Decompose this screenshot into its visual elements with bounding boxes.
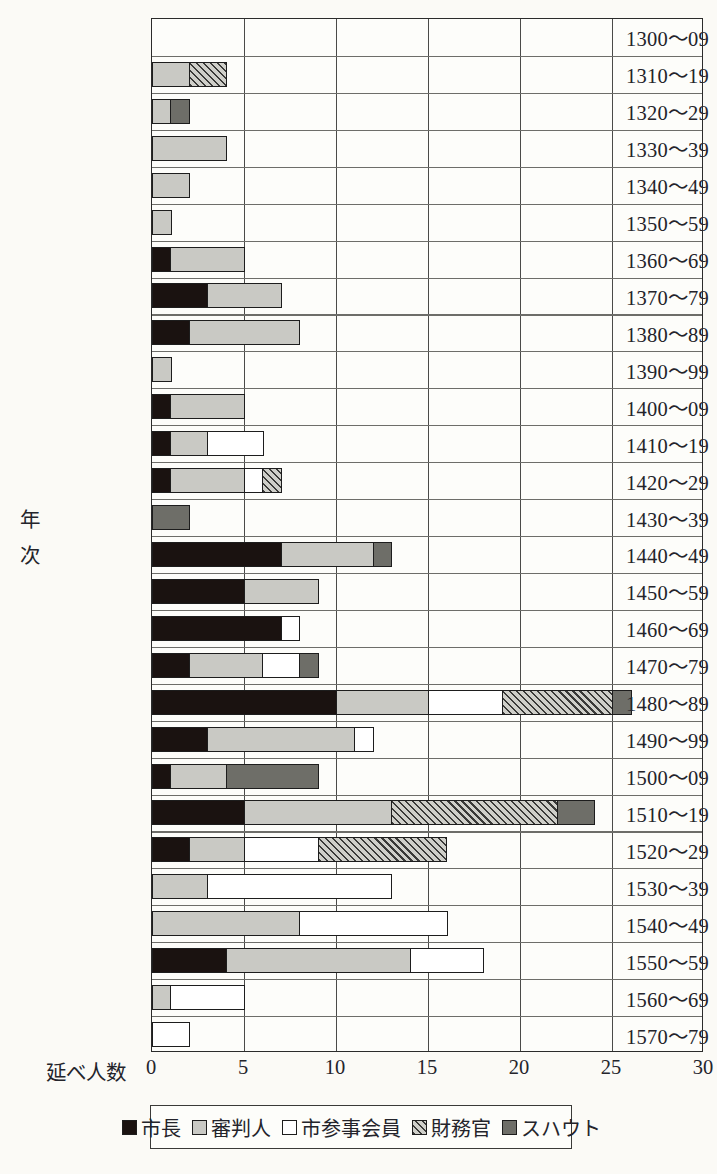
bar-segment-shinpan bbox=[281, 542, 374, 567]
bar-1510～19 bbox=[152, 800, 595, 825]
y-axis-tick-label: 1320～29 bbox=[572, 96, 717, 126]
bar-segment-sanji bbox=[262, 653, 300, 678]
rowline bbox=[152, 647, 702, 648]
bar-1530～39 bbox=[152, 874, 392, 899]
bar-1460～69 bbox=[152, 616, 300, 641]
bar-segment-shicho bbox=[152, 800, 245, 825]
rowline bbox=[152, 831, 702, 832]
legend-label-zaimu: 財務官 bbox=[431, 1113, 491, 1142]
y-axis-tick-label: 1480～89 bbox=[572, 687, 717, 717]
bar-1480～89 bbox=[152, 690, 632, 715]
bar-1380～89 bbox=[152, 320, 300, 345]
bar-segment-shicho bbox=[152, 283, 208, 308]
x-axis-tick-15: 15 bbox=[417, 1056, 438, 1079]
bar-segment-shinpan bbox=[244, 579, 319, 604]
bar-1550～59 bbox=[152, 948, 484, 973]
bar-segment-shinpan bbox=[152, 210, 172, 235]
y-axis-tick-label: 1550～59 bbox=[572, 946, 717, 976]
y-axis-tick-label: 1500～09 bbox=[572, 761, 717, 791]
bar-segment-shinpan bbox=[170, 247, 245, 272]
legend-label-sanji: 市参事会員 bbox=[301, 1113, 401, 1142]
legend-item-shinpan: 審判人 bbox=[192, 1113, 271, 1142]
bar-segment-shinpan bbox=[152, 62, 190, 87]
y-axis-tick-label: 1300～09 bbox=[572, 22, 717, 52]
rowline bbox=[152, 204, 702, 205]
bar-segment-shinpan bbox=[152, 874, 208, 899]
y-axis-tick-label: 1310～19 bbox=[572, 59, 717, 89]
rowline bbox=[152, 573, 702, 574]
bar-segment-sanji bbox=[207, 431, 263, 456]
bar-1370～79 bbox=[152, 283, 282, 308]
bar-1400～09 bbox=[152, 394, 245, 419]
bar-segment-sanji bbox=[152, 1022, 190, 1047]
legend-swatch-schout bbox=[502, 1120, 517, 1135]
bar-segment-shicho bbox=[152, 542, 282, 567]
bar-1450～59 bbox=[152, 579, 319, 604]
y-axis-tick-label: 1470～79 bbox=[572, 650, 717, 680]
bar-segment-shicho bbox=[152, 764, 172, 789]
x-axis-tick-0: 0 bbox=[146, 1056, 156, 1079]
legend-label-shicho: 市長 bbox=[141, 1113, 181, 1142]
y-axis-tick-label: 1360～69 bbox=[572, 244, 717, 274]
bar-segment-shicho bbox=[152, 431, 172, 456]
y-axis-tick-label: 1340～49 bbox=[572, 170, 717, 200]
bar-segment-shinpan bbox=[189, 320, 301, 345]
bar-1320～29 bbox=[152, 99, 190, 124]
y-axis-tick-label: 1530～39 bbox=[572, 872, 717, 902]
x-axis: 延べ人数 051015202530 bbox=[0, 1056, 717, 1086]
bar-segment-sanji bbox=[354, 727, 374, 752]
rowline bbox=[152, 130, 702, 131]
rowline bbox=[152, 868, 702, 869]
bar-segment-shinpan bbox=[336, 690, 429, 715]
bar-1520～29 bbox=[152, 837, 447, 862]
bar-segment-schout bbox=[226, 764, 319, 789]
rowline bbox=[152, 499, 702, 500]
bar-segment-shinpan bbox=[189, 653, 264, 678]
rowline bbox=[152, 462, 702, 463]
bar-1560～69 bbox=[152, 985, 245, 1010]
bar-segment-shicho bbox=[152, 616, 282, 641]
y-axis-tick-label: 1380～89 bbox=[572, 318, 717, 348]
bar-segment-sanji bbox=[244, 468, 264, 493]
bar-segment-sanji bbox=[281, 616, 301, 641]
bar-segment-sanji bbox=[244, 837, 319, 862]
bar-segment-shicho bbox=[152, 690, 337, 715]
bar-segment-schout bbox=[373, 542, 393, 567]
legend-swatch-shinpan bbox=[192, 1120, 207, 1135]
legend-item-shicho: 市長 bbox=[122, 1113, 181, 1142]
bar-segment-shinpan bbox=[170, 468, 245, 493]
legend: 市長審判人市参事会員財務官スハウト bbox=[150, 1105, 572, 1149]
bar-segment-schout bbox=[299, 653, 319, 678]
y-axis-tick-label: 1460～69 bbox=[572, 613, 717, 643]
rowline bbox=[152, 388, 702, 389]
bar-segment-shinpan bbox=[170, 764, 226, 789]
legend-label-schout: スハウト bbox=[521, 1113, 601, 1142]
gridline-x-15 bbox=[428, 19, 429, 1051]
bar-1540～49 bbox=[152, 911, 448, 936]
x-axis-caption: 延べ人数 bbox=[46, 1056, 126, 1086]
legend-swatch-sanji bbox=[282, 1120, 297, 1135]
bar-1500～09 bbox=[152, 764, 319, 789]
bar-segment-zaimu bbox=[262, 468, 282, 493]
rowline bbox=[152, 56, 702, 57]
bar-segment-shicho bbox=[152, 837, 190, 862]
bar-1570～79 bbox=[152, 1022, 190, 1047]
bar-1390～99 bbox=[152, 357, 172, 382]
y-axis-tick-label: 1490～99 bbox=[572, 724, 717, 754]
bar-segment-sanji bbox=[428, 690, 503, 715]
y-axis-tick-label: 1450～59 bbox=[572, 576, 717, 606]
bar-1350～59 bbox=[152, 210, 172, 235]
rowline bbox=[152, 167, 702, 168]
rowline bbox=[152, 758, 702, 759]
y-axis-tick-label: 1330～39 bbox=[572, 133, 717, 163]
y-axis-tick-label: 1420～29 bbox=[572, 466, 717, 496]
y-axis-tick-label: 1510～19 bbox=[572, 798, 717, 828]
y-axis-tick-label: 1400～09 bbox=[572, 392, 717, 422]
rowline bbox=[152, 278, 702, 279]
rowline bbox=[152, 1016, 702, 1017]
bar-segment-shicho bbox=[152, 320, 190, 345]
legend-item-schout: スハウト bbox=[502, 1113, 601, 1142]
y-axis-tick-label: 1370～79 bbox=[572, 281, 717, 311]
bar-segment-shinpan bbox=[152, 911, 300, 936]
bar-1430～39 bbox=[152, 505, 190, 530]
